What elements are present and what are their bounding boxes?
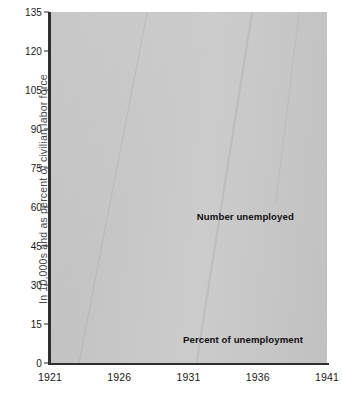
x-axis-tick-label: 1941 — [315, 371, 339, 383]
y-axis-tick-label: 60 — [8, 202, 42, 213]
y-axis-tick-label: 135 — [8, 7, 42, 18]
x-axis-tick-label: 1936 — [246, 371, 270, 383]
x-axis-tick-label: 1926 — [107, 371, 131, 383]
y-axis-line — [48, 12, 51, 365]
x-axis-tick-label: 1931 — [176, 371, 200, 383]
y-axis-tick-label: 0 — [8, 358, 42, 369]
x-axis-line — [48, 363, 329, 365]
y-axis-tick-label: 45 — [8, 241, 42, 252]
y-axis-tick-label: 30 — [8, 280, 42, 291]
y-axis-tick-label: 105 — [8, 85, 42, 96]
series-annotation-number-unemployed: Number unemployed — [197, 211, 294, 222]
y-axis-tick-label: 120 — [8, 46, 42, 57]
plot-area — [50, 12, 327, 363]
plot-background — [50, 12, 327, 363]
y-axis-tick-label: 90 — [8, 124, 42, 135]
y-axis-tick-label: 75 — [8, 163, 42, 174]
y-axis-tick-label: 15 — [8, 319, 42, 330]
x-axis-tick-label: 1921 — [38, 371, 62, 383]
series-annotation-percent-unemployment: Percent of unemployment — [183, 334, 303, 345]
unemployment-line-chart: In 10,000s and as percent of civilian la… — [0, 0, 342, 394]
